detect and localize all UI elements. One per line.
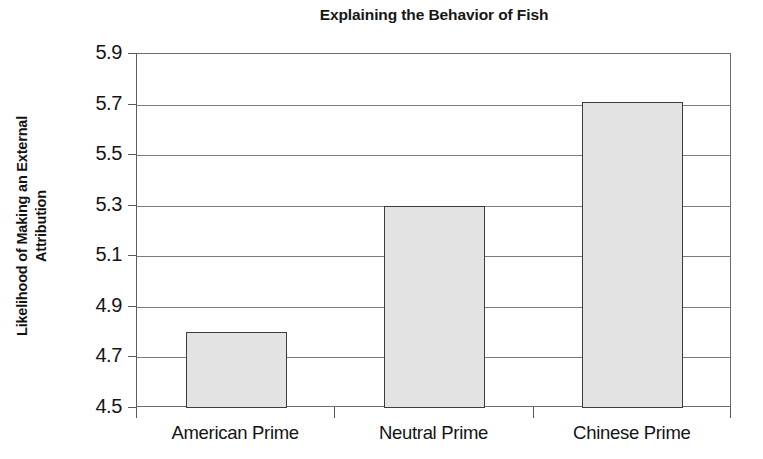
y-axis-tick-label: 5.9 xyxy=(95,42,122,62)
y-axis-tick-label: 4.7 xyxy=(95,345,122,365)
chart-title: Explaining the Behavior of Fish xyxy=(136,5,732,25)
y-axis-tick-mark xyxy=(128,205,137,206)
x-axis-tick-mark xyxy=(730,407,731,418)
y-axis-tick-label: 5.7 xyxy=(95,93,122,113)
y-axis-tick-mark xyxy=(128,306,137,307)
x-axis-category-label: Neutral Prime xyxy=(334,421,532,445)
y-axis-tick-labels: 5.95.75.55.35.14.94.74.5 xyxy=(56,0,128,459)
bar xyxy=(582,102,683,408)
x-axis-category-label: Chinese Prime xyxy=(533,421,731,445)
y-axis-tick-label: 4.9 xyxy=(95,295,122,315)
y-axis-tick-mark xyxy=(128,356,137,357)
y-axis-title: Likelihood of Making an External Attribu… xyxy=(10,36,54,416)
x-axis-category-label: American Prime xyxy=(136,421,334,445)
bar-chart-figure: Explaining the Behavior of Fish Likeliho… xyxy=(0,0,763,459)
y-axis-title-text: Likelihood of Making an External Attribu… xyxy=(13,36,51,416)
y-axis-tick-label: 4.5 xyxy=(95,396,122,416)
y-axis-tick-mark xyxy=(128,53,137,54)
y-axis-tick-mark xyxy=(128,255,137,256)
y-axis-tick-mark xyxy=(128,104,137,105)
bar xyxy=(186,332,287,408)
bar xyxy=(384,206,485,408)
x-axis-tick-mark xyxy=(334,407,335,418)
x-axis-tick-mark xyxy=(136,407,137,418)
y-axis-tick-label: 5.3 xyxy=(95,194,122,214)
plot-area xyxy=(136,53,731,407)
y-axis-tick-label: 5.5 xyxy=(95,143,122,163)
y-axis-tick-label: 5.1 xyxy=(95,244,122,264)
y-axis-tick-mark xyxy=(128,154,137,155)
x-axis-tick-mark xyxy=(533,407,534,418)
